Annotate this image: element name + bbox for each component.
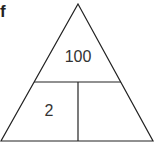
bottom-left-cell-value: 2 <box>45 102 54 120</box>
number-triangle <box>0 0 155 147</box>
top-cell-value: 100 <box>65 48 92 66</box>
triangle-outline <box>1 4 153 141</box>
